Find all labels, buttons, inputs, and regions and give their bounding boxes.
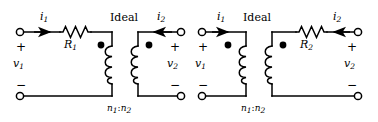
right-secondary-minus-sign: − [347,79,357,91]
right-ideal-label: Ideal [243,12,271,23]
left-secondary-plus-sign: + [170,41,180,53]
left-primary-minus-terminal [16,92,23,99]
left-primary-plus-terminal [16,28,23,35]
right-i2-label: i2 [333,11,341,24]
left-resistor-R1 [60,27,91,38]
circuit-schematic-svg [0,0,378,122]
right-secondary-polarity-dot [280,42,287,49]
right-primary-coil [239,46,246,84]
right-i1-label: i1 [217,11,225,24]
right-resistor-R2 [296,27,327,38]
left-v2-label: v2 [167,58,178,71]
right-primary-minus-terminal [198,92,205,99]
left-i2-label: i2 [157,11,165,24]
right-secondary-plus-sign: + [347,41,357,53]
right-primary-polarity-dot [225,42,232,49]
left-primary-minus-sign: − [16,79,26,91]
left-i1-label: i1 [40,11,48,24]
right-turns-ratio-label: n1:n2 [241,104,265,115]
circuit-diagram-canvas: i1 R1 Ideal i2 + − v1 + − v2 n1:n2 i1 Id… [0,0,378,122]
left-secondary-minus-sign: − [170,79,180,91]
left-resistor-R1-label: R1 [64,39,77,52]
right-primary-plus-sign: + [198,41,208,53]
left-primary-plus-sign: + [16,41,26,53]
left-turns-ratio-label: n1:n2 [107,104,131,115]
left-secondary-minus-terminal [177,92,184,99]
left-ideal-label: Ideal [110,12,138,23]
right-v1-label: v1 [195,58,206,71]
right-secondary-plus-terminal [354,28,361,35]
right-v2-label: v2 [344,58,355,71]
left-secondary-plus-terminal [177,28,184,35]
right-resistor-R2-label: R2 [300,39,313,52]
left-secondary-coil [131,46,138,84]
right-secondary-minus-terminal [354,92,361,99]
left-primary-polarity-dot [98,42,105,49]
right-secondary-coil [265,46,272,84]
right-primary-plus-terminal [198,28,205,35]
left-primary-coil [105,46,112,84]
left-secondary-polarity-dot [146,42,153,49]
left-v1-label: v1 [13,58,24,71]
right-primary-minus-sign: − [198,79,208,91]
